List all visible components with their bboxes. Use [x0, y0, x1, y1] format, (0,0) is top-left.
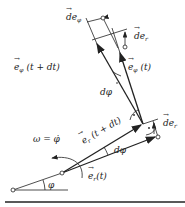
- label-e-phi-t: eφ (t): [128, 63, 151, 73]
- label-dphi-upper: dφ: [100, 88, 112, 97]
- label-e-r-t: er(t): [88, 172, 107, 182]
- dphi-arc-lower: [104, 147, 108, 155]
- origin-point: [11, 188, 15, 192]
- e-phi-t-dt-vector: [97, 44, 143, 124]
- phi-angle-arc: [43, 180, 45, 190]
- de-r-right-helper: [143, 119, 158, 124]
- label-omega: ω = φ̇: [33, 135, 60, 144]
- right-angle-dot-upper: [133, 114, 135, 116]
- radius-line: [13, 173, 62, 190]
- label-de-r-right: der: [163, 119, 177, 129]
- dphi-dot: [116, 82, 118, 84]
- de-phi-helper: [103, 18, 118, 48]
- e-phi-t-dt-tip-point: [101, 16, 105, 20]
- right-angle-dot-lower: [148, 127, 150, 129]
- e-r-t-vector: [62, 137, 155, 173]
- point-p: [60, 171, 64, 175]
- label-de-r-top: der: [134, 32, 148, 42]
- e-r-t-tip-point: [156, 135, 160, 139]
- label-de-phi: deφ: [66, 13, 81, 23]
- label-e-phi-t-dt: eφ (t + dt): [14, 63, 60, 73]
- diagram-canvas: deφ der eφ (t + dt) eφ (t) dφ ω = φ̇ er …: [0, 0, 185, 207]
- label-dphi-lower: dφ: [114, 146, 126, 155]
- de-phi-dimension: [87, 18, 103, 22]
- right-angle-mark-lower: [146, 128, 156, 135]
- label-phi: φ: [48, 181, 54, 190]
- e-phi-t-tip-point: [123, 45, 127, 49]
